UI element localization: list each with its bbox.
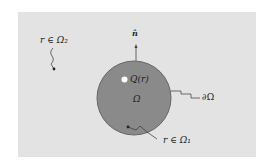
domain-label: Ω xyxy=(133,95,140,104)
boundary-leader-line xyxy=(171,91,200,98)
outside-point-label: r ∈ Ω₂ xyxy=(40,36,68,45)
boundary-label: ∂Ω xyxy=(202,93,214,102)
source-label: Q(r) xyxy=(130,75,149,84)
arrow-head-icon xyxy=(135,44,138,48)
outside-point-dot xyxy=(53,68,56,71)
source-point-marker xyxy=(122,77,128,83)
normal-vector-label: n̂ xyxy=(132,29,138,37)
outside-point-leader-line xyxy=(51,48,54,69)
inside-point-label: r ∈ Ω₁ xyxy=(163,136,191,145)
inside-point-dot xyxy=(127,126,130,129)
